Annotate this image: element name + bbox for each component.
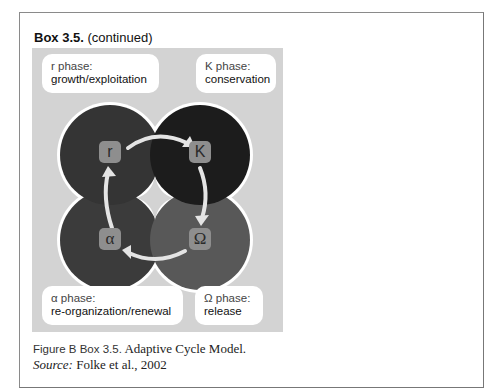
source-label: Source: xyxy=(33,357,73,372)
source-text: Folke et al., 2002 xyxy=(73,357,167,372)
caption-title-line: Figure B Box 3.5. Adaptive Cycle Model. xyxy=(33,341,246,357)
caption-source-line: Source: Folke et al., 2002 xyxy=(33,357,246,372)
alpha-symbol: α xyxy=(99,228,121,250)
box-title: Box 3.5. (continued) xyxy=(34,30,153,45)
figure-caption: Figure B Box 3.5. Adaptive Cycle Model. … xyxy=(33,341,246,372)
adaptive-cycle-figure: r phase: growth/exploitation K phase: co… xyxy=(32,48,283,332)
r-symbol: r xyxy=(99,141,121,163)
omega-symbol: Ω xyxy=(189,228,211,250)
figure-label: Figure B Box 3.5. xyxy=(33,343,122,355)
box-number: Box 3.5. xyxy=(34,30,84,45)
box-continued: (continued) xyxy=(84,30,153,45)
figure-title: Adaptive Cycle Model. xyxy=(122,341,246,356)
r-phase-label: r phase: growth/exploitation xyxy=(42,54,159,93)
omega-phase-label: Ω phase: release xyxy=(195,286,263,325)
k-symbol: K xyxy=(189,141,211,163)
alpha-phase-label: α phase: re-organization/renewal xyxy=(42,286,183,325)
k-phase-label: K phase: conservation xyxy=(196,54,276,93)
